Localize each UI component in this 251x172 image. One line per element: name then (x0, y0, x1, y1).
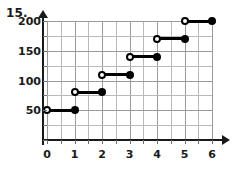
x-axis-tick (116, 140, 117, 144)
x-axis-arrow-icon (222, 135, 230, 145)
y-axis-tick (43, 95, 47, 96)
x-axis-tick (143, 140, 144, 144)
x-axis-tick (185, 140, 186, 144)
x-axis-tick (61, 140, 62, 144)
y-tick-label: 150 (8, 44, 41, 57)
x-axis-tick (157, 140, 158, 144)
y-axis-tick (43, 81, 47, 82)
x-axis-line (42, 139, 224, 141)
y-axis-tick (43, 21, 47, 22)
x-tick-label: 1 (71, 148, 79, 161)
y-tick-label: 100 (8, 74, 41, 87)
y-axis-tick (43, 125, 47, 126)
step-endpoint-open (98, 71, 106, 79)
x-axis-tick (75, 140, 76, 144)
step-endpoint-closed (98, 88, 106, 96)
gridline-horizontal (47, 125, 212, 126)
gridline-horizontal (47, 66, 212, 67)
x-tick-label: 3 (126, 148, 134, 161)
step-endpoint-open (126, 53, 134, 61)
step-function-figure: 15. 012345650100150200 (0, 0, 251, 172)
y-axis-tick (43, 140, 47, 141)
y-axis-tick (43, 36, 47, 37)
y-axis-tick (43, 110, 47, 111)
x-tick-label: 5 (181, 148, 189, 161)
step-endpoint-open (71, 88, 79, 96)
x-tick-label: 0 (43, 148, 51, 161)
step-endpoint-open (153, 35, 161, 43)
gridline-vertical (212, 21, 213, 140)
step-endpoint-closed (71, 106, 79, 114)
x-axis-tick (212, 140, 213, 144)
x-tick-label: 4 (153, 148, 161, 161)
x-axis-tick (47, 140, 48, 144)
y-axis-tick (43, 51, 47, 52)
x-tick-label: 2 (98, 148, 106, 161)
step-endpoint-closed (208, 17, 216, 25)
x-tick-label: 6 (208, 148, 216, 161)
x-axis-tick (171, 140, 172, 144)
y-tick-label: 200 (8, 15, 41, 28)
step-endpoint-closed (126, 71, 134, 79)
x-axis-tick (102, 140, 103, 144)
step-endpoint-open (181, 17, 189, 25)
plot-area (47, 21, 212, 140)
x-axis-tick (88, 140, 89, 144)
y-tick-label: 50 (8, 104, 41, 117)
x-axis-tick (130, 140, 131, 144)
x-axis-tick (198, 140, 199, 144)
step-endpoint-closed (181, 35, 189, 43)
y-axis-tick (43, 66, 47, 67)
gridline-horizontal (47, 81, 212, 82)
step-endpoint-closed (153, 53, 161, 61)
